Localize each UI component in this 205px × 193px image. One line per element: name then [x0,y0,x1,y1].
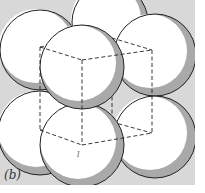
lattice-parameter-label: l [77,150,80,159]
sphere-back-top-right [113,14,196,96]
simple-cubic-unit-cell-diagram: l (b) [0,0,205,193]
diagram-canvas [0,0,205,193]
sphere-back-bottom-right [113,96,196,178]
figure-caption-label: (b) [4,168,21,182]
